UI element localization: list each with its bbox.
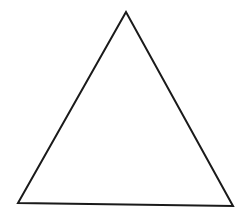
triangle-diagram — [0, 0, 246, 214]
triangle-shape — [18, 12, 233, 206]
